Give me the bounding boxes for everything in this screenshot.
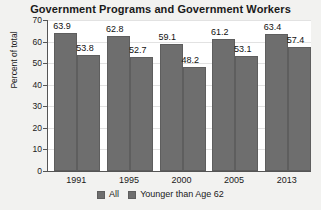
y-tick-label-30: 30 (22, 102, 42, 111)
bar-value-label-2013-younger: 57.4 (287, 36, 305, 45)
bar-value-label-1991-all: 63.9 (53, 22, 71, 31)
bar-group-1991: 63.953.8 (54, 20, 100, 171)
x-axis-tick-labels: 19911995200020052013 (47, 175, 310, 189)
y-tick-label-50: 50 (22, 59, 42, 68)
bar-group-2000: 59.148.2 (160, 20, 206, 171)
plot-area: 63.953.862.852.759.148.261.253.163.457.4 (47, 20, 311, 172)
bar-value-label-2000-younger: 48.2 (182, 56, 200, 65)
legend-entry-all[interactable]: All (97, 190, 119, 199)
y-tick-label-20: 20 (22, 124, 42, 133)
x-tick-label-1991: 1991 (53, 175, 99, 185)
bar-2005-younger (235, 56, 258, 171)
bar-1991-all (54, 33, 77, 171)
bar-value-label-2005-younger: 53.1 (234, 45, 252, 54)
bar-2000-younger (183, 67, 206, 171)
chart-title: Government Programs and Government Worke… (0, 3, 321, 15)
y-tick-label-40: 40 (22, 80, 42, 89)
legend-label: All (109, 190, 119, 199)
bar-2000-all (160, 44, 183, 171)
bar-1995-younger (130, 57, 153, 171)
bar-2013-all (265, 34, 288, 171)
legend-label: Younger than Age 62 (140, 190, 224, 199)
x-tick-label-2013: 2013 (264, 175, 310, 185)
x-tick-label-1995: 1995 (106, 175, 152, 185)
bar-value-label-1991-younger: 53.8 (76, 44, 94, 53)
legend-entry-younger-than-age-62[interactable]: Younger than Age 62 (128, 190, 224, 199)
bar-2005-all (212, 39, 235, 171)
y-tick-label-0: 0 (22, 167, 42, 176)
bar-value-label-2005-all: 61.2 (211, 28, 229, 37)
legend-swatch-icon (128, 191, 136, 199)
bar-chart: Government Programs and Government Worke… (0, 0, 321, 210)
bar-2013-younger (288, 47, 311, 171)
x-tick-label-2000: 2000 (159, 175, 205, 185)
bar-value-label-2013-all: 63.4 (264, 23, 282, 32)
y-tick-label-60: 60 (22, 37, 42, 46)
bar-group-2005: 61.253.1 (212, 20, 258, 171)
y-tick-label-10: 10 (22, 145, 42, 154)
y-axis-tick-labels: 010203040506070 (22, 20, 42, 171)
x-tick-label-2005: 2005 (211, 175, 257, 185)
legend-swatch-icon (97, 191, 105, 199)
bar-group-2013: 63.457.4 (265, 20, 311, 171)
chart-legend: AllYounger than Age 62 (0, 190, 321, 199)
y-axis-label: Percent of total (9, 0, 19, 120)
bar-value-label-1995-younger: 52.7 (129, 46, 147, 55)
y-tick-label-70: 70 (22, 16, 42, 25)
bar-group-1995: 62.852.7 (107, 20, 153, 171)
bar-value-label-1995-all: 62.8 (106, 25, 124, 34)
bar-1995-all (107, 36, 130, 171)
bars-layer: 63.953.862.852.759.148.261.253.163.457.4 (48, 20, 311, 171)
bar-1991-younger (77, 55, 100, 171)
bar-value-label-2000-all: 59.1 (159, 33, 177, 42)
